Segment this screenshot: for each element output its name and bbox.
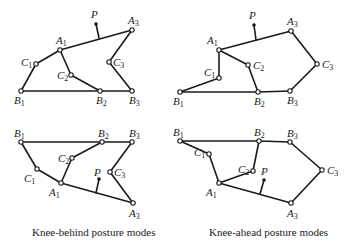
label-a3: A3 [127, 14, 139, 28]
label-b2: B2 [254, 95, 265, 109]
joint-a1 [58, 48, 62, 52]
joint-c1 [207, 152, 211, 156]
label-p: P [93, 166, 101, 178]
link-B1-C1 [21, 142, 37, 169]
joint-b2 [100, 140, 104, 144]
label-a1: A1 [205, 186, 217, 200]
label-b2: B2 [254, 126, 265, 140]
label-p: P [90, 8, 98, 20]
link-C1-A1 [37, 169, 61, 183]
label-c3: C3 [322, 58, 333, 72]
link-B1-C1 [180, 78, 219, 92]
label-b3: B3 [287, 127, 298, 141]
label-c2: C2 [238, 163, 249, 177]
joint-a3 [130, 28, 134, 32]
joint-b1 [178, 90, 182, 94]
joint-b3 [288, 140, 292, 144]
joint-a3 [131, 201, 135, 205]
label-b1: B1 [14, 94, 25, 108]
point-p-marker [94, 22, 98, 26]
label-c2: C2 [253, 59, 264, 73]
joint-c2 [70, 156, 74, 160]
joint-b2 [98, 89, 102, 93]
label-b2: B2 [98, 127, 109, 141]
label-p: P [260, 165, 268, 177]
point-p-stem [254, 25, 256, 40]
label-c3: C3 [114, 166, 125, 180]
label-c2: C2 [58, 152, 69, 166]
joint-a1 [217, 181, 221, 185]
label-c1: C1 [21, 56, 32, 70]
label-b3: B3 [129, 94, 140, 108]
label-a3: A3 [286, 207, 298, 221]
mechanism-diagrams: B1C1A1C2B2B3C3A3PB1C1A1C2B2B3C3A3PB1C1A1… [0, 0, 356, 245]
joint-c3 [320, 168, 324, 172]
joint-c1 [217, 76, 221, 80]
label-b1: B1 [14, 127, 25, 141]
link-C1-A1 [36, 50, 60, 64]
label-b1: B1 [173, 126, 184, 140]
link-C2-B2 [71, 75, 100, 91]
link-B2-B3 [258, 91, 290, 92]
joint-c1 [35, 167, 39, 171]
caption-knee-behind: Knee-behind posture modes [32, 226, 155, 238]
joint-c1 [34, 62, 38, 66]
joint-c2 [69, 73, 73, 77]
link-B3-C3 [290, 142, 322, 170]
link-C3-A3 [291, 170, 322, 203]
link-C3-A3 [291, 31, 317, 64]
point-p-stem [96, 179, 99, 193]
knee-ahead-lower-linkage: B1C1A1C2B2B3C3A3P [173, 126, 338, 221]
label-c2: C2 [57, 69, 68, 83]
label-a1: A1 [206, 34, 218, 48]
label-c3: C3 [327, 164, 338, 178]
label-p: P [248, 9, 256, 21]
joint-c3 [108, 170, 112, 174]
link-A1-A3 [60, 30, 132, 50]
label-c1: C1 [194, 146, 205, 160]
joint-a1 [59, 181, 63, 185]
label-c1: C1 [204, 66, 215, 80]
joint-b2 [256, 90, 260, 94]
joint-a1 [217, 48, 221, 52]
figure-canvas: B1C1A1C2B2B3C3A3PB1C1A1C2B2B3C3A3PB1C1A1… [0, 0, 356, 245]
knee-behind-upper-linkage: B1C1A1C2B2B3C3A3P [14, 8, 140, 108]
label-a1: A1 [48, 186, 60, 200]
point-p-stem [96, 24, 99, 38]
joint-b3 [130, 89, 134, 93]
label-c1: C1 [24, 172, 35, 186]
joint-a3 [289, 29, 293, 33]
label-a3: A3 [286, 15, 298, 29]
link-A1-C2 [219, 50, 248, 65]
point-p-stem [260, 180, 264, 194]
joint-c3 [315, 62, 319, 66]
label-b3: B3 [129, 127, 140, 141]
label-a1: A1 [55, 34, 67, 48]
label-b1: B1 [173, 95, 184, 109]
joint-c3 [107, 60, 111, 64]
label-c3: C3 [113, 56, 124, 70]
label-b3: B3 [287, 94, 298, 108]
label-b2: B2 [96, 94, 107, 108]
link-B2-B3 [259, 141, 290, 142]
point-p-marker [262, 178, 266, 182]
knee-ahead-upper-linkage: B1C1A1C2B2B3C3A3P [173, 9, 333, 109]
link-A1-A3 [219, 183, 291, 203]
link-B3-C3 [290, 64, 317, 91]
joint-b3 [130, 140, 134, 144]
link-C2-B2 [253, 141, 259, 171]
link-C1-A1 [209, 154, 219, 183]
joint-c2 [251, 169, 255, 173]
caption-knee-ahead: Knee-ahead posture modes [209, 226, 328, 238]
knee-behind-lower-linkage: B1C1A1C2B2B3C3A3P [14, 127, 140, 221]
joint-a3 [289, 201, 293, 205]
joint-b3 [288, 89, 292, 93]
joint-b1 [19, 89, 23, 93]
label-a3: A3 [128, 207, 140, 221]
point-p-marker [252, 23, 256, 27]
link-C2-B2 [72, 142, 102, 158]
joint-c2 [246, 63, 250, 67]
